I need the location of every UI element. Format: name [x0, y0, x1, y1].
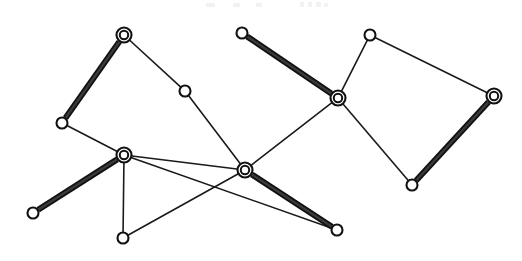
graph-figure: [0, 0, 522, 261]
vertex[interactable]: [332, 225, 343, 236]
matched-vertex[interactable]: [117, 148, 132, 163]
vertex[interactable]: [180, 86, 191, 97]
vertex[interactable]: [118, 233, 129, 244]
vertex[interactable]: [365, 30, 376, 41]
graph-canvas: [0, 0, 522, 261]
vertex[interactable]: [28, 208, 39, 219]
figure-background: [0, 0, 522, 261]
vertex[interactable]: [237, 28, 248, 39]
matched-vertex[interactable]: [331, 91, 346, 106]
matched-vertex[interactable]: [117, 28, 132, 43]
vertex[interactable]: [57, 118, 68, 129]
graph-edge: [123, 163, 124, 232]
matched-vertex[interactable]: [487, 89, 502, 104]
vertex[interactable]: [407, 180, 418, 191]
matched-vertex[interactable]: [238, 163, 253, 178]
